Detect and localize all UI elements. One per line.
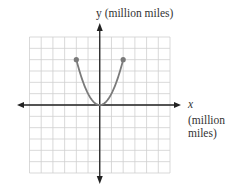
y-axis-up-arrow-icon bbox=[97, 23, 103, 31]
endpoint-dot bbox=[74, 57, 79, 62]
x-axis-unit-label-1: (million bbox=[188, 114, 225, 127]
y-axis-label: y (million miles) bbox=[96, 7, 173, 20]
endpoint-dot bbox=[121, 57, 126, 62]
x-axis-left-arrow-icon bbox=[17, 102, 24, 108]
x-axis-right-arrow-icon bbox=[174, 102, 181, 108]
x-axis-unit-label-2: miles) bbox=[188, 127, 217, 140]
y-axis-down-arrow-icon bbox=[97, 176, 103, 184]
parabola-chart: y (million miles) x (million miles) bbox=[0, 0, 232, 186]
x-axis-var-label: x bbox=[187, 98, 194, 110]
